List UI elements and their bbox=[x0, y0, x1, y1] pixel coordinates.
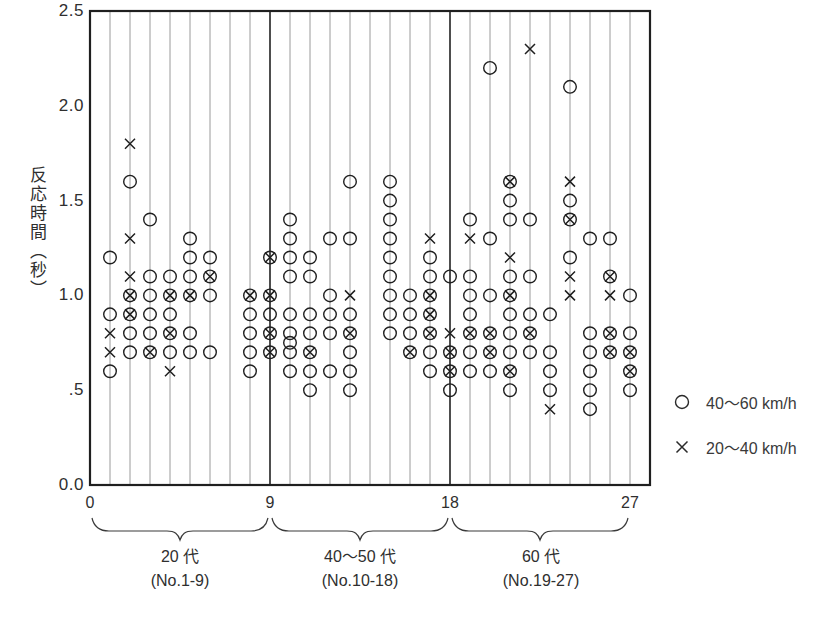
cross-marker-icon bbox=[672, 437, 692, 457]
group-sublabel-no10-18: (No.10-18) bbox=[322, 572, 398, 590]
reaction-time-scatter-chart: 反応時間（秒） 2.5 2.0 1.5 1.0 .5 0.0 0 9 18 27… bbox=[0, 0, 837, 617]
plot-area bbox=[0, 0, 837, 617]
legend-item-20-40: 20〜40 km/h bbox=[672, 436, 797, 458]
group-brace bbox=[272, 518, 448, 540]
legend-label-20-40: 20〜40 km/h bbox=[706, 435, 797, 459]
group-brace bbox=[452, 518, 628, 540]
legend-item-40-60: 40〜60 km/h bbox=[672, 391, 797, 413]
group-label-40-50s: 40〜50 代 bbox=[324, 543, 396, 567]
group-sublabel-no19-27: (No.19-27) bbox=[503, 572, 579, 590]
group-label-60s: 60 代 bbox=[522, 543, 560, 567]
y-axis-title: 反応時間（秒） bbox=[24, 166, 49, 299]
y-tick-2.0: 2.0 bbox=[34, 96, 84, 116]
y-tick-2.5: 2.5 bbox=[34, 1, 84, 21]
group-sublabel-no1-9: (No.1-9) bbox=[151, 572, 210, 590]
y-tick-0.0: 0.0 bbox=[34, 475, 84, 495]
x-tick-18: 18 bbox=[441, 494, 459, 512]
y-tick-0.5: .5 bbox=[34, 380, 84, 400]
y-tick-1.5: 1.5 bbox=[34, 191, 84, 211]
x-tick-27: 27 bbox=[621, 494, 639, 512]
group-brace bbox=[92, 518, 268, 540]
group-label-20s: 20 代 bbox=[161, 543, 199, 567]
x-tick-9: 9 bbox=[266, 494, 275, 512]
x-tick-0: 0 bbox=[86, 494, 95, 512]
legend-label-40-60: 40〜60 km/h bbox=[706, 390, 797, 414]
circle-marker-icon bbox=[672, 392, 692, 412]
y-tick-1.0: 1.0 bbox=[34, 285, 84, 305]
